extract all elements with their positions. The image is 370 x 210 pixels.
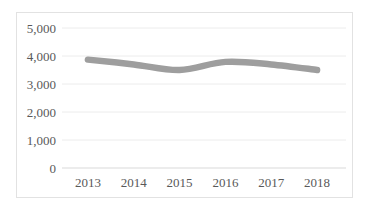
x-axis-tick-label: 2016 [212,175,239,190]
x-axis-tick-label: 2015 [167,175,193,190]
y-axis-tick-label: 4,000 [27,49,56,64]
chart-canvas: 01,0002,0003,0004,0005,00020132014201520… [0,0,370,210]
y-axis-tick-label: 1,000 [27,133,56,148]
y-axis-tick-label: 3,000 [27,77,56,92]
x-axis-tick-label: 2018 [304,175,330,190]
x-axis-tick-label: 2014 [121,175,148,190]
line-chart: 01,0002,0003,0004,0005,00020132014201520… [0,0,370,210]
y-axis-tick-label: 0 [50,161,57,176]
x-axis-tick-label: 2017 [258,175,285,190]
x-axis-tick-label: 2013 [75,175,101,190]
y-axis-tick-label: 2,000 [27,105,56,120]
y-axis-tick-label: 5,000 [27,21,56,36]
series-line [88,60,317,70]
